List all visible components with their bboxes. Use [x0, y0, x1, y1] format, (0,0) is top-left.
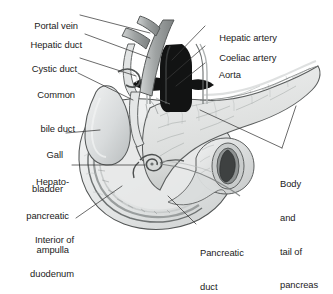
label-aorta: Aorta	[209, 58, 241, 92]
label-body-and-tail-line1: Body	[280, 178, 318, 189]
label-pancreatic-duct: Pancreatic duct	[200, 225, 244, 294]
label-pancreatic-duct-line2: duct	[200, 281, 244, 292]
label-body-and-tail-line4: pancreas	[280, 279, 318, 290]
label-interior-of-duodenum: Interior of duodenum	[0, 212, 74, 294]
label-hepatic-duct-line1: Hepatic duct	[30, 39, 82, 50]
label-body-and-tail-line2: and	[280, 212, 318, 223]
label-pancreatic-duct-line1: Pancreatic	[200, 247, 244, 258]
gall-bladder-shape	[85, 76, 130, 165]
label-interior-of-duodenum-line1: Interior of	[0, 234, 74, 245]
label-aorta-line1: Aorta	[219, 69, 241, 80]
label-common-bile-duct-line1: Common	[0, 89, 75, 100]
label-hepatopancreatic-ampulla-line1: Hepato-	[0, 176, 69, 187]
label-body-and-tail-line3: tail of	[280, 246, 318, 257]
label-body-and-tail-of-pancreas: Body and tail of pancreas	[280, 156, 318, 294]
label-interior-of-duodenum-line2: duodenum	[0, 268, 74, 279]
